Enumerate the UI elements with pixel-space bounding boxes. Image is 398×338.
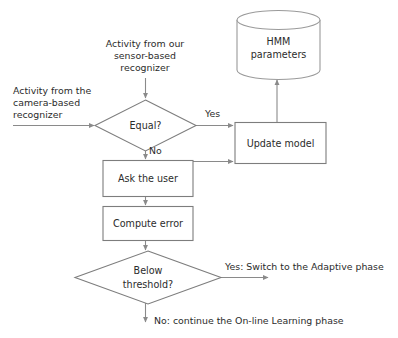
hmm-cylinder-top <box>237 11 320 30</box>
node-update-model: Update model <box>235 123 326 164</box>
compute-error-label: Compute error <box>113 218 183 229</box>
sensor-input-line1: Activity from our <box>106 38 185 49</box>
sensor-input-line3: recognizer <box>120 62 169 73</box>
equal-decision-label: Equal? <box>130 120 162 131</box>
node-hmm-parameters: HMM parameters <box>237 11 320 80</box>
update-model-label: Update model <box>247 138 315 149</box>
node-below-threshold-decision: Below threshold? <box>75 251 221 304</box>
below-threshold-label-line1: Below <box>134 265 163 276</box>
edge-label-threshold-yes: Yes: Switch to the Adaptive phase <box>224 261 384 272</box>
camera-input-line3: recognizer <box>13 109 62 120</box>
hmm-label-line2: parameters <box>251 49 307 60</box>
edge-label-equal-yes: Yes <box>204 108 220 119</box>
below-threshold-diamond-shape <box>75 251 221 304</box>
node-compute-error: Compute error <box>103 207 193 241</box>
flowchart-svg: HMM parameters Equal? Update model Ask t… <box>0 0 398 338</box>
node-ask-the-user: Ask the user <box>103 161 193 197</box>
edge-label-equal-no: No <box>149 145 162 156</box>
edge-label-threshold-no: No: continue the On-line Learning phase <box>154 315 344 326</box>
label-sensor-input: Activity from our sensor-based recognize… <box>106 38 185 73</box>
sensor-input-line2: sensor-based <box>114 50 176 61</box>
node-equal-decision: Equal? <box>95 100 196 151</box>
below-threshold-label-line2: threshold? <box>123 279 173 290</box>
hmm-label-line1: HMM <box>267 36 291 47</box>
camera-input-line1: Activity from the <box>13 85 91 96</box>
label-camera-input: Activity from the camera-based recognize… <box>13 85 91 120</box>
ask-the-user-label: Ask the user <box>118 173 178 184</box>
flowchart-canvas: HMM parameters Equal? Update model Ask t… <box>0 0 398 338</box>
camera-input-line2: camera-based <box>13 97 80 108</box>
